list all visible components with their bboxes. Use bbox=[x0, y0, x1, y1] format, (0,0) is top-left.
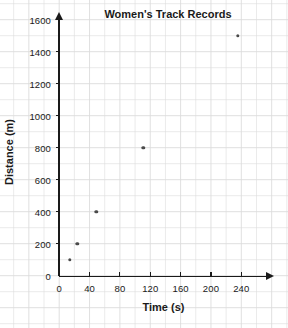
data-point bbox=[76, 242, 79, 245]
chart-figure: 04080120160200240 0200400600800100012001… bbox=[0, 0, 288, 328]
data-point bbox=[95, 210, 98, 213]
y-axis-tick bbox=[56, 19, 60, 20]
data-point bbox=[68, 258, 71, 261]
chart-plot-area: 04080120160200240 0200400600800100012001… bbox=[0, 0, 288, 328]
y-axis-tick bbox=[56, 179, 60, 180]
y-axis-tick bbox=[56, 83, 60, 84]
y-axis-tick-label: 1400 bbox=[29, 46, 51, 57]
y-axis-tick bbox=[56, 211, 60, 212]
x-axis-tick bbox=[89, 272, 90, 276]
x-axis-tick-label: 0 bbox=[56, 283, 61, 294]
x-axis-tick bbox=[150, 272, 151, 276]
y-axis-tick-label: 800 bbox=[35, 142, 51, 153]
x-axis-tick-label: 240 bbox=[233, 283, 249, 294]
y-axis-tick-label: 400 bbox=[35, 206, 51, 217]
y-axis-tick bbox=[56, 115, 60, 116]
x-axis-line bbox=[59, 276, 268, 278]
y-axis-tick bbox=[56, 147, 60, 148]
x-axis-tick-label: 80 bbox=[115, 283, 126, 294]
x-axis-tick bbox=[119, 272, 120, 276]
x-axis-tick-label: 40 bbox=[84, 283, 95, 294]
x-axis-tick-label: 200 bbox=[203, 283, 219, 294]
y-axis-tick-label: 1600 bbox=[29, 14, 51, 25]
y-axis-tick-label: 0 bbox=[46, 270, 51, 281]
y-axis-tick bbox=[56, 51, 60, 52]
x-axis-tick bbox=[180, 272, 181, 276]
chart-title: Women's Track Records bbox=[78, 8, 258, 20]
x-axis-tick bbox=[210, 272, 211, 276]
x-axis-arrow-icon bbox=[266, 272, 274, 280]
y-axis-tick-label: 1200 bbox=[29, 78, 51, 89]
y-axis-tick-label: 200 bbox=[35, 238, 51, 249]
data-point bbox=[142, 146, 145, 149]
x-axis-tick-label: 120 bbox=[142, 283, 158, 294]
y-axis-tick-label: 1000 bbox=[29, 110, 51, 121]
x-axis-tick bbox=[241, 272, 242, 276]
y-axis-tick-label: 600 bbox=[35, 174, 51, 185]
x-axis-tick-label: 160 bbox=[173, 283, 189, 294]
data-point bbox=[236, 34, 239, 37]
y-axis-label: Distance (m) bbox=[3, 119, 15, 185]
y-axis-tick bbox=[56, 243, 60, 244]
x-axis-label: Time (s) bbox=[59, 301, 268, 313]
